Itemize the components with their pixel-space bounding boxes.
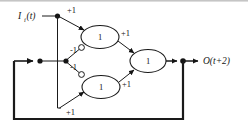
feedback-junction-node-a [37,58,42,63]
weight-hidden-bottom-to-output: +1 [122,79,131,89]
neuron-output-value: 1 [146,56,150,66]
input-label: I [17,11,22,21]
edge-hidden-top-to-output [118,41,134,53]
weight-input-to-hidden-bottom: +1 [66,107,75,117]
neuron-hidden-top-value: 1 [98,32,102,42]
edge-input-to-hidden-top [59,17,84,31]
input-label-tail: (t) [27,11,36,22]
weight-input-to-hidden-top: +1 [67,5,76,15]
inhibitory-terminal-bottom-icon [79,72,85,78]
neural-network-figure: 1 1 1 I i (t) O(t+2) +1 +1 -1 -1 +1 +1 [0,0,248,133]
weight-feedback-to-hidden-top: -1 [70,45,77,55]
output-label: O(t+2) [203,56,230,67]
weight-feedback-to-hidden-bottom: -1 [70,62,77,72]
diagram-canvas: 1 1 1 I i (t) O(t+2) +1 +1 -1 -1 +1 +1 [0,0,248,133]
inhibitory-terminal-top-icon [79,45,85,51]
edge-input-to-hidden-bottom [60,92,85,108]
neuron-hidden-bottom-value: 1 [99,82,103,92]
input-branch-wire [58,16,62,108]
weight-hidden-top-to-output: +1 [121,28,130,38]
